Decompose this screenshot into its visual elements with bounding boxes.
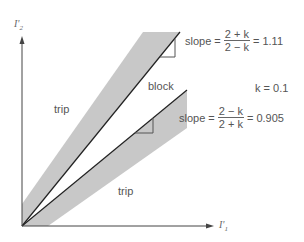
lower-slope-equation: slope = 2 − k 2 + k = 0.905: [179, 105, 284, 130]
y-axis-arrow-icon: [20, 36, 25, 44]
upper-slope-denominator: 2 − k: [224, 41, 250, 53]
k-value-label: k = 0.1: [255, 82, 288, 94]
region-label-trip-lower: trip: [118, 185, 133, 197]
y-axis-label: I'2: [14, 18, 23, 32]
lower-slope-numerator: 2 − k: [218, 105, 244, 118]
upper-slope-fraction: 2 + k 2 − k: [224, 28, 250, 53]
upper-slope-equation: slope = 2 + k 2 − k = 1.11: [185, 28, 283, 53]
x-axis-arrow-icon: [206, 224, 214, 229]
lower-slope-result: = 0.905: [247, 112, 284, 124]
upper-slope-prefix: slope =: [185, 35, 221, 47]
lower-slope-denominator: 2 + k: [218, 118, 244, 130]
upper-slope-numerator: 2 + k: [224, 28, 250, 41]
upper-slope-result: = 1.11: [253, 35, 283, 47]
lower-slope-prefix: slope =: [179, 112, 215, 124]
region-label-trip-upper: trip: [54, 103, 69, 115]
lower-slope-fraction: 2 − k 2 + k: [218, 105, 244, 130]
x-axis-label: I'1: [219, 219, 228, 233]
region-label-block: block: [148, 80, 174, 92]
